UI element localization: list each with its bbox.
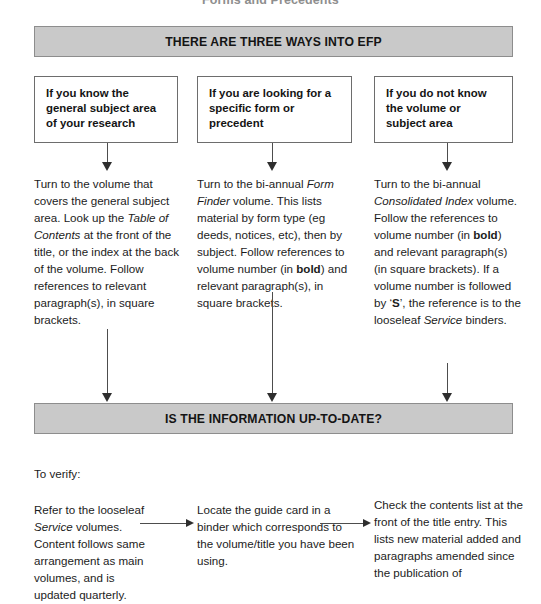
arrowhead-text1-to-banner: [102, 393, 112, 402]
arrowhead-lower2-to-lower3: [363, 519, 371, 527]
question-box-subject-area: If you know the general subject area of …: [34, 76, 178, 143]
banner-information-up-to-date-label: IS THE INFORMATION UP-TO-DATE?: [165, 412, 382, 426]
text-run-normal-0: Turn to the bi-annual: [374, 177, 481, 190]
question-box-specific-form-label: If you are looking for a specific form o…: [209, 87, 331, 129]
arrowhead-box3-to-text3: [442, 162, 452, 171]
text-run-italic-1: Consolidated Index: [374, 194, 473, 207]
lower-column-text-contents-list: Check the contents list at the front of …: [374, 497, 524, 582]
banner-information-up-to-date: IS THE INFORMATION UP-TO-DATE?: [34, 403, 513, 434]
text-run-italic-1: Service: [34, 520, 73, 533]
lower-column-text-service-volumes: Refer to the looseleaf Service volumes. …: [34, 502, 159, 604]
arrowhead-text2-to-banner: [267, 393, 277, 402]
arrowhead-text3-to-banner: [442, 393, 452, 402]
text-run-italic-7: Service: [424, 313, 463, 326]
connector-line-box1-to-text1: [107, 143, 108, 164]
connector-line-lower1-to-lower2: [140, 523, 188, 524]
text-run-bold-5: S: [392, 296, 400, 309]
text-run-normal-0: Locate the guide card in a binder which …: [197, 503, 354, 567]
banner-ways-into-efp-label: THERE ARE THREE WAYS INTO EFP: [165, 35, 382, 49]
arrowhead-box2-to-text2: [267, 162, 277, 171]
text-run-normal-0: Turn to the bi-annual: [197, 177, 307, 190]
column-text-consolidated-index: Turn to the bi-annual Consolidated Index…: [374, 176, 522, 329]
text-run-bold-3: bold: [473, 228, 497, 241]
text-run-normal-2: at the front of the title, or the index …: [34, 228, 179, 326]
connector-line-lower2-to-lower3: [320, 523, 365, 524]
page-running-head: Forms and Precedents: [0, 0, 541, 7]
connector-line-text3-to-banner: [447, 363, 448, 395]
text-run-normal-0: Refer to the looseleaf: [34, 503, 144, 516]
to-verify-label: To verify:: [34, 466, 80, 483]
question-box-unknown-volume-label: If you do not know the volume or subject…: [386, 87, 487, 129]
question-box-specific-form: If you are looking for a specific form o…: [197, 76, 352, 143]
lower-column-text-guide-card: Locate the guide card in a binder which …: [197, 502, 357, 570]
connector-line-box2-to-text2: [272, 143, 273, 164]
connector-line-box3-to-text3: [447, 143, 448, 164]
column-text-subject-area: Turn to the volume that covers the gener…: [34, 176, 186, 329]
column-text-form-finder: Turn to the bi-annual Form Finder volume…: [197, 176, 359, 312]
connector-line-text1-to-banner: [107, 329, 108, 395]
arrowhead-box1-to-text1: [102, 162, 112, 171]
connector-line-text2-to-banner: [272, 292, 273, 395]
text-run-bold-3: bold: [296, 262, 320, 275]
text-run-normal-8: binders.: [462, 313, 506, 326]
question-box-unknown-volume: If you do not know the volume or subject…: [374, 76, 513, 143]
question-box-subject-area-label: If you know the general subject area of …: [46, 87, 156, 129]
text-run-normal-0: Check the contents list at the front of …: [374, 498, 523, 579]
banner-ways-into-efp: THERE ARE THREE WAYS INTO EFP: [34, 26, 513, 57]
arrowhead-lower1-to-lower2: [186, 519, 194, 527]
